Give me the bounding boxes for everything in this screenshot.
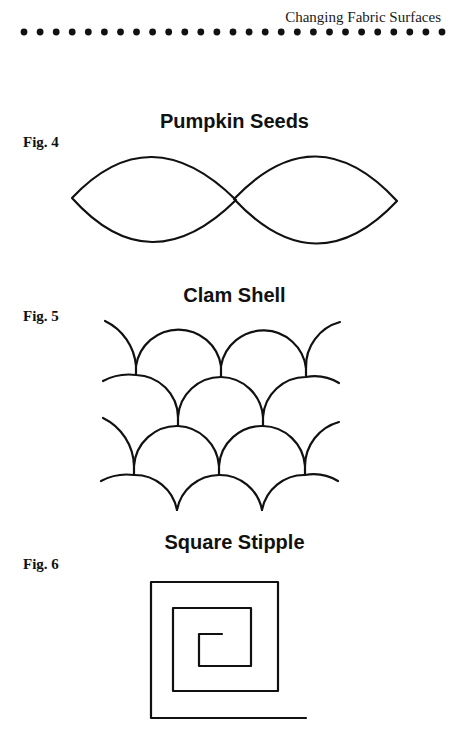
rule-dot (390, 29, 397, 36)
rule-dot (342, 29, 349, 36)
rule-dot (37, 29, 44, 36)
figure-6-title: Square Stipple (0, 530, 457, 554)
clam-shell-diagram (101, 321, 340, 510)
rule-dot (165, 29, 172, 36)
rule-dot (406, 29, 413, 36)
rule-dot (326, 29, 333, 36)
running-header-title: Changing Fabric Surfaces (285, 8, 441, 26)
pumpkin-seed-left (72, 157, 236, 242)
rule-dot (423, 29, 430, 36)
rule-dot (69, 29, 76, 36)
pumpkin-seeds-diagram (72, 156, 397, 243)
rule-dot (197, 29, 204, 36)
figure-5-title: Clam Shell (0, 283, 457, 307)
rule-dot (374, 29, 381, 36)
rule-dot (310, 29, 317, 36)
rule-dot (278, 29, 285, 36)
pumpkin-seed-right (234, 156, 397, 243)
rule-dot (133, 29, 140, 36)
figure-5-label: Fig. 5 (23, 307, 59, 325)
rule-dot (101, 29, 108, 36)
square-stipple-diagram (151, 582, 306, 718)
rule-dot (294, 29, 301, 36)
figure-4-title: Pumpkin Seeds (0, 109, 457, 133)
rule-dot (85, 29, 92, 36)
rule-dot (246, 29, 253, 36)
rule-dot (439, 29, 446, 36)
figure-6-label: Fig. 6 (23, 555, 59, 573)
rule-dot (214, 29, 221, 36)
rule-dot (230, 29, 237, 36)
rule-dot (149, 29, 156, 36)
rule-dot (117, 29, 124, 36)
rule-dot (181, 29, 188, 36)
figure-4-label: Fig. 4 (23, 133, 59, 151)
rule-dot (262, 29, 269, 36)
rule-dot (53, 29, 60, 36)
dotted-rule-divider (0, 26, 457, 38)
rule-dot (358, 29, 365, 36)
rule-dot (21, 29, 28, 36)
square-spiral-line (151, 582, 306, 718)
